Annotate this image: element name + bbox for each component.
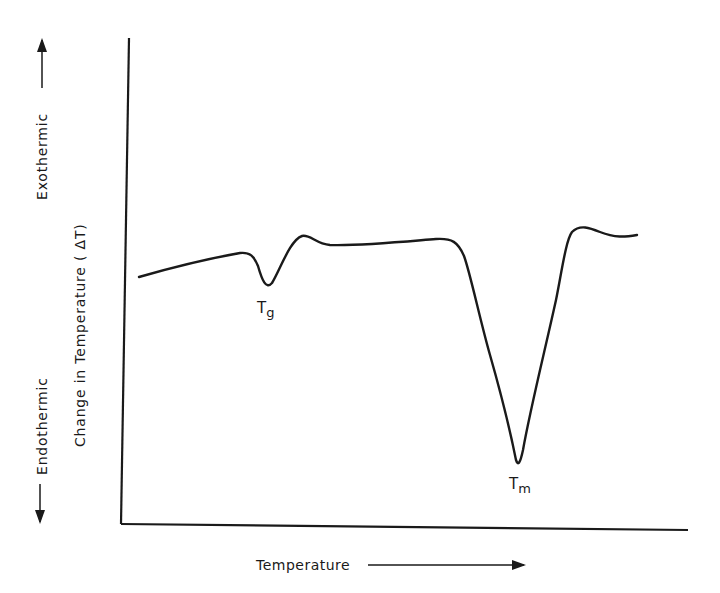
- y-axis-line: [121, 38, 129, 524]
- tg-label: Tg: [256, 299, 274, 320]
- endothermic-label: Endothermic: [34, 377, 50, 475]
- tm-label: Tm: [508, 475, 531, 496]
- exothermic-label: Exothermic: [34, 113, 50, 200]
- x-axis-label: Temperature: [255, 557, 350, 573]
- dta-chart: Tg Tm Temperature Change in Temperature …: [0, 0, 720, 593]
- y-axis-label: Change in Temperature ( ΔT): [72, 224, 88, 448]
- x-axis-line: [121, 524, 688, 530]
- dta-curve: [139, 227, 637, 463]
